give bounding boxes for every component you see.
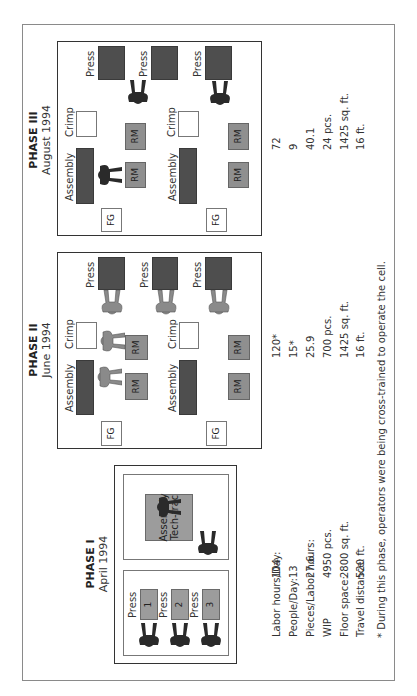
phase3-press-label-2: Press (139, 51, 149, 77)
phase3-crimp-1 (76, 111, 97, 137)
fg-label: FG (212, 427, 222, 439)
phase2-date: June 1994 (40, 300, 53, 400)
phase2-assembly-2 (179, 360, 197, 415)
phase3-press-2 (151, 46, 178, 80)
phase3-pieces: 40.1 (306, 128, 316, 150)
press-number: 2 (175, 602, 185, 608)
phase2-rm-1: RM (125, 335, 148, 360)
rm-label: RM (234, 168, 244, 182)
operator-icon (137, 623, 161, 649)
phase3-crimp-2 (178, 111, 199, 137)
phase2-press-label-2: Press (140, 262, 150, 288)
phase1-press-label-3: Press (190, 592, 200, 618)
phase2-press-1 (98, 257, 125, 290)
figure-rotated: PHASE I April 1994 1 2 3 Press Press Pre… (0, 0, 417, 696)
stat-label-people: People/Day: (289, 578, 299, 637)
phase2-crimp-label-1: Crimp (65, 319, 75, 349)
phase3-assembly-1 (76, 148, 94, 204)
operator-icon (155, 495, 181, 519)
operator-icon (96, 163, 122, 187)
fg-label: FG (212, 214, 222, 226)
phase2-fg-1: FG (101, 421, 122, 446)
stat-label-pieces: Pieces/Labor hours: (306, 539, 316, 637)
operator-icon (126, 80, 150, 106)
phase2-press-2 (152, 257, 178, 290)
operator-icon-training (100, 290, 124, 316)
stat-label-floor-space: Floor space: (340, 576, 350, 637)
operator-icon-training (207, 290, 231, 316)
rm-label: RM (234, 379, 244, 393)
phase2-rm-3: RM (228, 335, 250, 360)
phase3-press-1 (98, 46, 125, 80)
phase3-press-3 (205, 46, 232, 80)
phase2-labor-hours: 120* (272, 334, 282, 358)
phase2-press-label-3: Press (193, 262, 203, 288)
phase3-wip: 24 pcs. (323, 114, 333, 150)
footnote: * During this phase, operators were bein… (376, 261, 387, 638)
phase3-assembly-label-2: Assembly (168, 153, 178, 201)
phase2-crimp-1 (76, 322, 97, 349)
phase2-title: PHASE II (27, 300, 40, 400)
phase1-press-label-1: Press (128, 592, 138, 618)
phase2-rm-2: RM (125, 373, 148, 400)
fg-label: FG (107, 427, 117, 439)
phase2-travel: 16 ft. (356, 332, 366, 358)
operator-icon (168, 623, 192, 649)
phase1-press-2: 2 (171, 589, 189, 620)
phase3-press-label-3: Press (193, 51, 203, 77)
operator-icon (196, 531, 220, 557)
fg-label: FG (107, 214, 117, 226)
operator-icon-training (99, 329, 125, 353)
operator-icon-training (154, 290, 178, 316)
phase3-date: August 1994 (40, 90, 53, 190)
phase3-rm-4: RM (228, 162, 249, 188)
phase3-labor-hours: 72 (272, 137, 282, 150)
phase1-pieces: 27.6 (306, 556, 316, 578)
phase3-assembly-2 (179, 148, 197, 204)
phase3-fg-2: FG (206, 208, 227, 232)
phase3-floor-space: 1425 sq. ft. (340, 93, 350, 150)
rm-label: RM (234, 340, 244, 354)
phase1-travel: 520 ft. (356, 545, 366, 578)
phase2-assembly-label-2: Assembly (168, 364, 178, 412)
phase2-wip: 700 pcs. (323, 316, 333, 359)
phase3-crimp-label-2: Crimp (167, 107, 177, 137)
phase1-press-3: 3 (202, 589, 220, 620)
phase2-press-label-1: Press (86, 262, 96, 288)
phase1-floor-space: 2800 sq. ft. (340, 521, 350, 578)
operator-icon (208, 81, 232, 107)
phase1-date: April 1994 (97, 514, 110, 614)
phase2-fg-2: FG (206, 421, 227, 446)
phase3-rm-1: RM (125, 123, 146, 150)
phase1-wip: 4950 pcs. (323, 529, 333, 578)
rm-label: RM (131, 129, 141, 143)
phase2-assembly-1 (76, 360, 94, 415)
phase1-people: 13 (289, 565, 299, 578)
phase3-press-label-1: Press (86, 51, 96, 77)
phase2-crimp-label-2: Crimp (168, 319, 178, 349)
phase3-fg-1: FG (101, 208, 122, 232)
rm-label: RM (132, 379, 142, 393)
rm-label: RM (234, 129, 244, 143)
operator-icon-training (96, 365, 122, 389)
press-number: 1 (144, 602, 154, 608)
press-number: 3 (206, 602, 216, 608)
phase2-assembly-label-1: Assembly (65, 364, 75, 412)
phase3-title: PHASE III (27, 90, 40, 190)
operator-icon (199, 623, 223, 649)
phase3-travel: 16 ft. (356, 124, 366, 150)
phase3-crimp-label-1: Crimp (65, 107, 75, 137)
phase2-floor-space: 1425 sq. ft. (340, 301, 350, 358)
phase2-press-3 (205, 257, 232, 290)
phase1-labor-hours: 104 (272, 559, 282, 578)
phase3-rm-2: RM (125, 162, 146, 188)
phase3-rm-3: RM (228, 123, 249, 150)
rm-label: RM (132, 340, 142, 354)
phase2-pieces: 25.9 (306, 336, 316, 358)
stat-label-wip: WIP (323, 618, 333, 637)
phase3-people: 9 (289, 144, 299, 150)
phase2-people: 15* (289, 340, 299, 358)
phase1-press-1: 1 (140, 589, 158, 620)
phase2-crimp-2 (179, 322, 199, 349)
phase1-title: PHASE I (84, 514, 97, 614)
